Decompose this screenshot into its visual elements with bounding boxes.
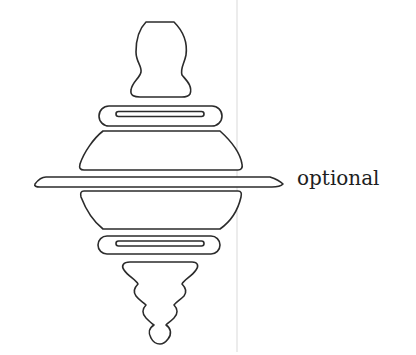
top-knob-shape <box>131 22 191 97</box>
middle-disk-shape <box>35 177 283 187</box>
lower-ring-slot <box>116 241 204 246</box>
upper-ring-slot <box>116 112 204 117</box>
lower-bowl-shape <box>81 191 242 229</box>
optional-label: optional <box>297 168 380 188</box>
bottom-tip-shape <box>123 262 198 344</box>
upper-bowl-shape <box>80 131 243 170</box>
